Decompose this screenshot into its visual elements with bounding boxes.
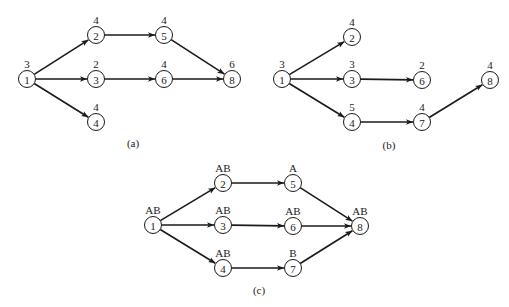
node-6: 6AB [285, 205, 302, 235]
node-label: 4 [487, 59, 493, 71]
node-2: 24 [88, 14, 105, 44]
diagram-a: 13243244546486(a) [19, 14, 241, 151]
node-id: 5 [290, 178, 296, 190]
edge-1-4 [289, 83, 344, 117]
node-label: 3 [349, 58, 355, 70]
node-label: 4 [161, 58, 167, 70]
node-8: 8AB [352, 205, 369, 235]
edge-7-8 [429, 85, 482, 118]
node-id: 5 [161, 30, 167, 42]
diagram-c: 1AB2AB3AB4AB5A6AB7B8AB(c) [145, 162, 369, 298]
node-5: 5A [285, 162, 302, 192]
node-id: 4 [349, 117, 355, 129]
node-id: 8 [487, 75, 493, 87]
node-label: AB [145, 204, 160, 216]
node-id: 8 [357, 221, 363, 233]
node-id: 3 [220, 220, 226, 232]
node-id: 4 [220, 263, 226, 275]
graph-canvas: 13243244546486(a) 13243345627484(b) 1AB2… [0, 0, 509, 307]
node-1: 13 [274, 58, 291, 88]
node-label: 3 [24, 58, 30, 70]
node-id: 1 [24, 74, 30, 86]
edge-3-6 [231, 225, 284, 226]
node-8: 84 [482, 59, 499, 89]
node-4: 44 [88, 101, 105, 131]
node-4: 45 [344, 101, 361, 131]
node-6: 64 [156, 58, 173, 88]
node-label: 4 [419, 101, 425, 113]
diagram-caption: (a) [127, 137, 140, 150]
edge-5-8 [171, 40, 224, 74]
node-id: 2 [220, 178, 226, 190]
node-1: 13 [19, 58, 36, 88]
node-id: 3 [93, 74, 99, 86]
node-label: B [289, 247, 296, 259]
node-id: 6 [161, 74, 167, 86]
node-id: 1 [150, 220, 156, 232]
node-8: 86 [224, 58, 241, 88]
node-label: 5 [349, 101, 355, 113]
node-7: 7B [285, 247, 302, 277]
edge-1-2 [160, 188, 215, 221]
node-3: 3AB [215, 204, 232, 234]
node-label: 2 [93, 58, 99, 70]
node-label: 2 [419, 59, 425, 71]
node-id: 6 [419, 75, 425, 87]
diagram-b: 13243345627484(b) [274, 16, 499, 153]
node-id: 6 [290, 221, 296, 233]
node-label: 4 [93, 101, 99, 113]
node-id: 7 [290, 263, 296, 275]
node-7: 74 [414, 101, 431, 131]
edge-3-6 [360, 79, 413, 80]
node-2: 24 [344, 16, 361, 46]
node-label: 4 [161, 14, 167, 26]
node-id: 2 [349, 32, 355, 44]
node-label: AB [285, 205, 300, 217]
node-label: AB [215, 247, 230, 259]
edge-1-2 [34, 40, 88, 75]
node-2: 2AB [215, 162, 232, 192]
node-label: AB [215, 162, 230, 174]
node-label: 4 [93, 14, 99, 26]
node-id: 3 [349, 74, 355, 86]
node-6: 62 [414, 59, 431, 89]
node-label: 4 [349, 16, 355, 28]
node-id: 4 [93, 117, 99, 129]
node-label: A [289, 162, 297, 174]
node-label: AB [352, 205, 367, 217]
node-label: 6 [229, 58, 235, 70]
edge-5-8 [300, 188, 352, 222]
node-id: 8 [229, 74, 235, 86]
edge-1-2 [289, 42, 344, 75]
node-3: 32 [88, 58, 105, 88]
diagram-caption: (b) [383, 139, 396, 152]
node-5: 54 [156, 14, 173, 44]
node-id: 1 [279, 74, 285, 86]
edge-1-4 [160, 229, 215, 263]
edge-1-4 [34, 83, 88, 117]
node-3: 33 [344, 58, 361, 88]
edge-7-8 [300, 231, 352, 264]
node-4: 4AB [215, 247, 232, 277]
node-1: 1AB [145, 204, 162, 234]
node-label: 3 [279, 58, 285, 70]
diagram-caption: (c) [253, 284, 266, 297]
node-label: AB [215, 204, 230, 216]
node-id: 2 [93, 30, 99, 42]
node-id: 7 [419, 117, 425, 129]
